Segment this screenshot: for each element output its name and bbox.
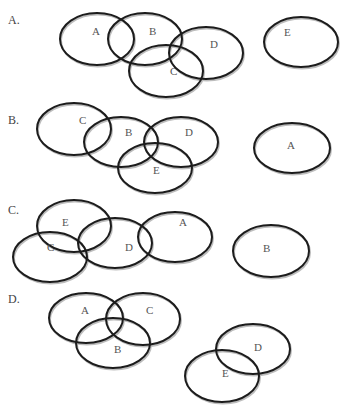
set-label-a: A — [287, 139, 295, 151]
set-label-d: D — [210, 38, 218, 50]
set-label-a: A — [92, 25, 100, 37]
set-label-c: C — [47, 241, 54, 253]
option-a: A.ABCDE — [8, 13, 339, 99]
set-label-d: D — [185, 126, 193, 138]
set-label-d: D — [254, 341, 262, 353]
set-ellipse-a — [138, 212, 212, 262]
option-label: C. — [8, 203, 19, 217]
set-ellipse-b — [233, 225, 309, 277]
venn-diagram-canvas: A.ABCDEB.CBDEAC.ECDABD.ACBDE — [0, 0, 342, 405]
set-label-d: D — [125, 241, 133, 253]
set-label-b: B — [125, 126, 132, 138]
set-ellipse-c — [37, 103, 111, 155]
set-ellipse-e — [264, 17, 338, 67]
option-c: C.ECDAB — [8, 200, 310, 284]
set-ellipse-d — [144, 117, 218, 167]
set-ellipse-c — [129, 45, 203, 97]
option-d: D.ACBDE — [8, 292, 291, 404]
option-label: B. — [8, 113, 19, 127]
set-label-e: E — [62, 216, 69, 228]
set-label-a: A — [81, 304, 89, 316]
set-label-e: E — [153, 164, 160, 176]
set-label-e: E — [284, 26, 291, 38]
set-label-b: B — [149, 25, 156, 37]
set-label-b: B — [114, 343, 121, 355]
option-label: D. — [8, 292, 20, 306]
set-ellipse-a — [60, 13, 134, 65]
set-ellipse-d — [169, 27, 243, 79]
set-ellipse-c — [13, 232, 87, 282]
set-ellipse-b — [108, 13, 182, 65]
option-label: A. — [8, 13, 20, 27]
set-label-b: B — [263, 242, 270, 254]
set-label-a: A — [179, 216, 187, 228]
set-label-c: C — [146, 304, 153, 316]
set-label-e: E — [222, 367, 229, 379]
set-label-c: C — [79, 114, 86, 126]
option-b: B.CBDEA — [8, 103, 331, 195]
